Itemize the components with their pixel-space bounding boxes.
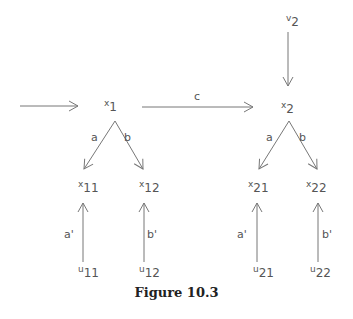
diagram: x1 x2 v2 x11 x12 x21 x22 u11 u12 u21 u22… bbox=[0, 0, 353, 319]
node-x21: x21 bbox=[248, 179, 269, 195]
node-x22: x22 bbox=[306, 179, 327, 195]
label-b-prime-left: b' bbox=[147, 228, 157, 241]
label-c: c bbox=[194, 90, 200, 103]
label-b-right: b bbox=[299, 131, 306, 144]
node-x2: x2 bbox=[281, 100, 294, 116]
edge-a-right bbox=[259, 121, 289, 169]
label-a-right: a bbox=[266, 131, 273, 144]
edge-b-right bbox=[289, 121, 317, 169]
node-v2: v2 bbox=[286, 13, 299, 29]
label-a-prime-left: a' bbox=[64, 228, 74, 241]
figure-caption: Figure 10.3 bbox=[0, 285, 353, 300]
node-x11: x11 bbox=[78, 179, 99, 195]
edge-a-left bbox=[84, 121, 115, 169]
node-u21: u21 bbox=[253, 264, 274, 280]
node-x12: x12 bbox=[139, 179, 160, 195]
node-x1: x1 bbox=[104, 98, 117, 114]
node-u11: u11 bbox=[78, 264, 99, 280]
label-b-prime-right: b' bbox=[322, 228, 332, 241]
label-a-left: a bbox=[91, 131, 98, 144]
label-b-left: b bbox=[124, 131, 131, 144]
node-u22: u22 bbox=[310, 264, 331, 280]
node-u12: u12 bbox=[139, 264, 160, 280]
label-a-prime-right: a' bbox=[237, 228, 247, 241]
figure-canvas: x1 x2 v2 x11 x12 x21 x22 u11 u12 u21 u22… bbox=[0, 0, 353, 319]
edge-b-left bbox=[115, 121, 143, 169]
